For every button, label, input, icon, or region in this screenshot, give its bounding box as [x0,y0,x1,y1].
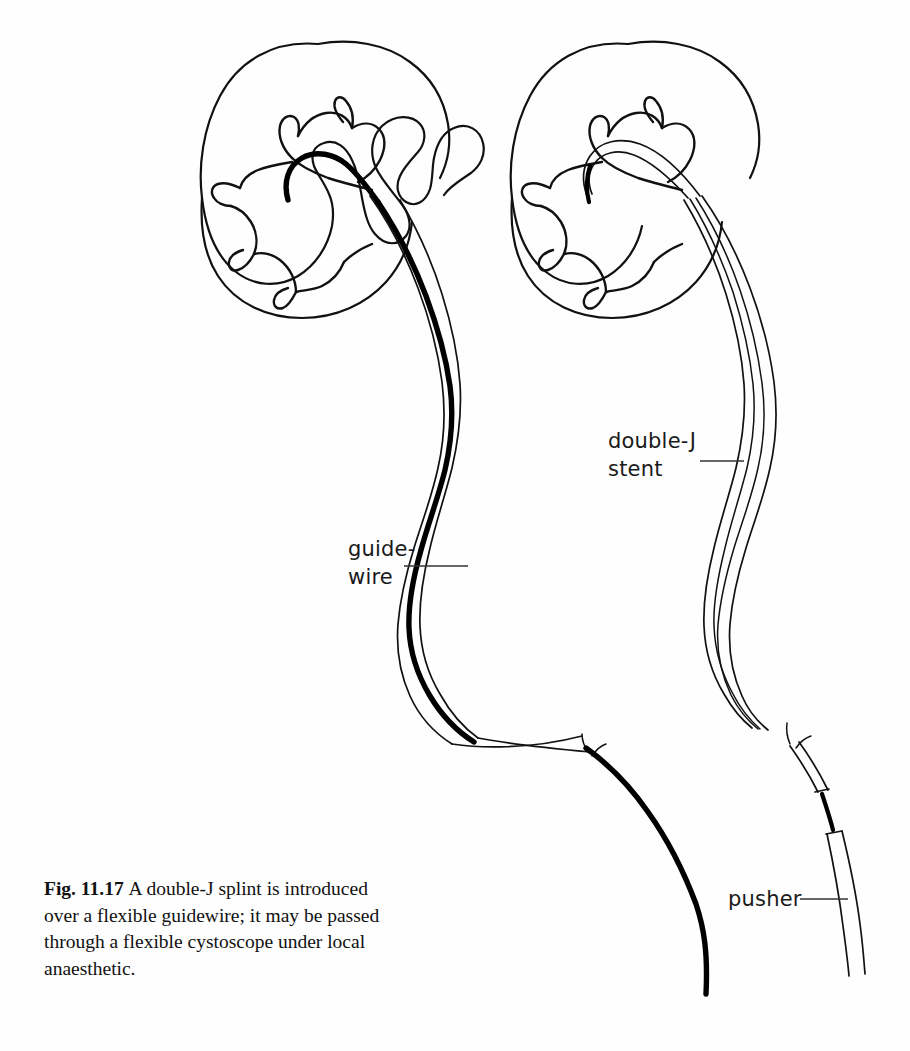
left-calyx-lower-2 [254,253,296,292]
right-calyx-mid [662,124,694,182]
left-calyx-lower [229,250,254,271]
left-guidewire-free-distal [586,748,707,994]
callout-guidewire: guide- wire [348,537,468,589]
right-kidney-group [511,42,865,976]
right-ureter-wall-lateral [702,196,776,730]
figure-caption: Fig. 11.17 A double-J splint is introduc… [44,876,404,982]
right-calyx-lower-4 [606,262,654,292]
right-kidney-outline [511,44,642,284]
left-calyx-lower-3 [274,288,296,309]
left-calyx-lateral-2 [212,183,240,206]
left-calyx-upper-2 [298,113,352,136]
right-calyx-lateral [550,162,602,188]
double-j-stent-label-line2: stent [608,457,663,481]
double-j-stent-label-line1: double-J [608,429,696,453]
figure-container: guide- wire double-J stent pusher Fig. 1… [0,0,910,1051]
left-calyx-upper [280,116,299,158]
right-calyx-lower-3 [584,288,606,309]
left-calyx-lateral-3 [231,206,256,254]
left-calyx-lower-5 [344,244,372,262]
pusher-label: pusher [728,887,802,911]
callout-double-j-stent: double-J stent [608,429,744,481]
right-calyx-upper-2 [608,113,662,136]
callout-pusher: pusher [728,887,848,911]
right-pusher-wall-right [842,831,865,974]
left-calyx-lower-4 [296,262,344,292]
left-ureter-wall-lateral [370,196,452,744]
right-kidney-lower-contour [512,198,722,318]
right-ureter-orifice-tick-1 [787,723,790,744]
right-stent-curl-inner [584,141,700,196]
right-calyx-lateral-2 [522,183,550,206]
right-kidney-upper-contour [628,42,759,178]
right-calyx-lateral-3 [541,206,566,254]
left-kidney-lower-contour [202,198,412,318]
right-calyx-lower [539,250,564,271]
right-calyx-lower-2 [564,253,606,292]
guidewire-label-line2: wire [348,565,393,589]
right-stent-wall-medial [690,199,760,729]
guidewire-label-line1: guide- [348,537,416,561]
right-stent-distal-wall-1 [790,746,818,792]
right-calyx-lower-5 [654,244,682,262]
left-kidney-group [201,42,707,994]
right-guidewire-exposed-segment [822,794,833,830]
figure-number: Fig. 11.17 [44,878,129,899]
right-pusher-wall-left [827,834,849,976]
